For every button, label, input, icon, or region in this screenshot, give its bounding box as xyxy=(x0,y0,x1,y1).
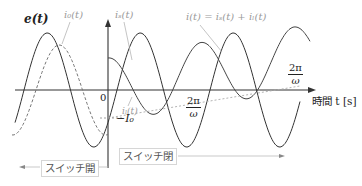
label-e: e(t) xyxy=(24,13,49,25)
leader-is xyxy=(124,22,132,60)
y-axis-arrow-icon xyxy=(105,19,111,27)
tick-2pi-omega-1: 2π ω xyxy=(186,96,201,119)
region-left-arrow-icon xyxy=(19,165,25,169)
curve-i-line xyxy=(108,27,310,114)
label-origin: 0 xyxy=(100,93,106,103)
tick-2pi-omega-2: 2π ω xyxy=(288,63,303,86)
label-i: i(t) = iₛ(t) + iₗ(t) xyxy=(186,12,266,22)
label-I0: −I₀ xyxy=(116,113,134,124)
tick-1-num: 2π xyxy=(186,96,201,108)
label-is: iₛ(t) xyxy=(115,10,133,20)
tick-2-den: ω xyxy=(291,75,299,86)
tick-1-den: ω xyxy=(189,108,197,119)
waveform-figure xyxy=(0,0,362,186)
region-right-arrow-icon xyxy=(279,154,285,158)
label-i0: i₀(t) xyxy=(64,10,83,20)
tick-2-num: 2π xyxy=(288,63,303,75)
leader-il xyxy=(128,97,132,106)
x-axis-arrow-icon xyxy=(308,87,316,93)
region-right-label: スイッチ閉 xyxy=(119,148,177,165)
leader-i0 xyxy=(62,22,70,44)
x-axis-label: 時間 t [s] xyxy=(312,96,356,107)
region-left-label: スイッチ開 xyxy=(41,160,99,177)
